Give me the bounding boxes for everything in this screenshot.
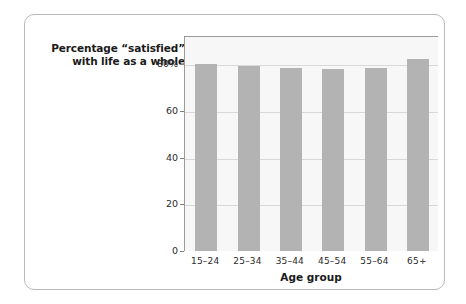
chart-card: Percentage “satisfied” with life as a wh… bbox=[24, 14, 445, 290]
gridline bbox=[185, 159, 438, 160]
y-axis-tick-labels: 020406080% bbox=[132, 36, 178, 251]
y-tick-label: 20 bbox=[138, 199, 178, 209]
gridline bbox=[185, 112, 438, 113]
y-tick-label: 40 bbox=[138, 153, 178, 163]
x-axis-tick-labels: 15–2425–3435–4445–5455–6465+ bbox=[184, 255, 438, 269]
plot-area bbox=[184, 36, 438, 251]
bar-45-54 bbox=[322, 69, 344, 251]
x-tick-label: 65+ bbox=[394, 255, 440, 267]
bar-55-64 bbox=[365, 68, 387, 251]
x-tick-label: 55–64 bbox=[352, 255, 398, 267]
gridline bbox=[185, 205, 438, 206]
bar-15-24 bbox=[195, 64, 217, 251]
x-tick-label: 35–44 bbox=[267, 255, 313, 267]
y-tick-label: 60 bbox=[138, 106, 178, 116]
x-tick-label: 45–54 bbox=[309, 255, 355, 267]
x-axis-title: Age group bbox=[184, 271, 438, 283]
y-tick-label: 0 bbox=[138, 246, 178, 256]
y-tick-label: 80% bbox=[138, 59, 178, 69]
bar-65+ bbox=[407, 59, 429, 251]
x-tick-label: 25–34 bbox=[225, 255, 271, 267]
bar-25-34 bbox=[238, 66, 260, 251]
bar-35-44 bbox=[280, 68, 302, 251]
y-tick-mark bbox=[180, 251, 184, 252]
x-tick-label: 15–24 bbox=[182, 255, 228, 267]
gridline bbox=[185, 65, 438, 66]
